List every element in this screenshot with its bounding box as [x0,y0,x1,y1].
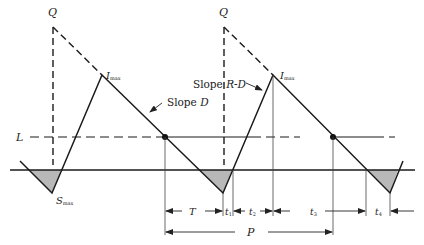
dim-label-P: P [246,226,255,239]
label-reorder-level: L [15,131,23,144]
label-slope-rd: Slope R-D [193,78,247,90]
dim-label-t1: t1 [225,207,232,217]
q-diagonal-dashed-2 [224,27,273,75]
label-q-left: Q [48,6,57,19]
label-slope-d: Slope D [167,96,209,108]
dim-label-t4: t4 [375,207,382,217]
slope-d-leader [150,103,162,112]
dim-label-t2: t2 [249,207,256,217]
slope-rd-leader [246,83,262,90]
shortage-area-3 [368,170,398,193]
dim-label-t3: t3 [310,207,317,217]
inventory-diagram: Q Q Imax Imax Smax L Slope D Slope R-D T… [0,0,424,245]
label-imax-right: Imax [279,70,295,81]
label-imax-left: Imax [105,70,121,81]
dim-label-T: T [189,206,197,217]
q-diagonal-dashed-1 [53,27,102,75]
label-q-right: Q [219,6,228,19]
label-smax: Smax [56,195,74,206]
